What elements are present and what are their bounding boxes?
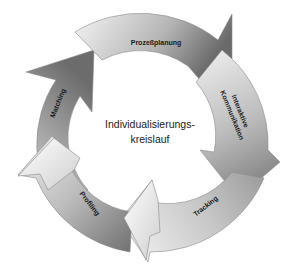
segment-profiling: Profiling bbox=[18, 136, 132, 252]
individualisierungs-kreislauf-diagram: Matching Prozeßplanung Interaktive Kommu… bbox=[0, 0, 297, 278]
arrow-profiling bbox=[18, 136, 132, 252]
label-prozessplanung: Prozeßplanung bbox=[131, 39, 182, 47]
center-label-line1: Individualisierungs- bbox=[105, 118, 195, 130]
center-label-line2: kreislauf bbox=[130, 133, 169, 145]
